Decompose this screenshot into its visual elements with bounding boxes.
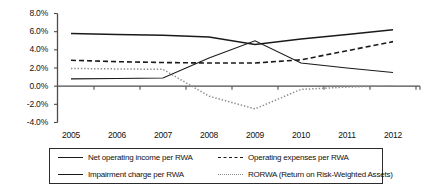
x-axis-tick-label: 2006: [97, 131, 137, 140]
x-axis-tick-label: 2011: [327, 131, 367, 140]
legend-label: RORWA (Return on Risk-Weighted Assets): [248, 170, 393, 179]
legend-label: Impairment charge per RWA: [88, 170, 184, 179]
legend-entry-rorwa: RORWA (Return on Risk-Weighted Assets): [218, 166, 393, 183]
y-axis-tick-label: 4.0%: [14, 45, 48, 54]
line-chart: 8.0%6.0%4.0%2.0%0.0%-2.0%-4.0% 200520062…: [0, 0, 430, 189]
y-axis-tick-label: 8.0%: [14, 9, 48, 18]
chart-legend: Net operating income per RWA Operating e…: [49, 148, 383, 184]
series-layer: [71, 30, 393, 109]
x-axis-tick-label: 2008: [189, 131, 229, 140]
x-axis-tick-label: 2010: [281, 131, 321, 140]
legend-entry-operating-expenses: Operating expenses per RWA: [218, 149, 349, 166]
axes-layer: [54, 14, 420, 123]
y-axis-tick-label: -2.0%: [14, 100, 48, 109]
x-axis-tick-label: 2009: [235, 131, 275, 140]
y-axis-tick-label: 6.0%: [14, 27, 48, 36]
x-axis-tick-label: 2012: [373, 131, 413, 140]
legend-label: Operating expenses per RWA: [248, 153, 349, 162]
series-line-0: [71, 30, 393, 45]
legend-line-icon-dotted: [218, 170, 243, 179]
legend-line-icon-solid-thick: [58, 153, 83, 162]
y-axis-tick-label: -4.0%: [14, 118, 48, 127]
y-axis-tick-label: 0.0%: [14, 82, 48, 91]
legend-entry-impairment-charge: Impairment charge per RWA: [58, 166, 184, 183]
series-line-2: [71, 41, 393, 79]
legend-label: Net operating income per RWA: [88, 153, 193, 162]
legend-row-2: Impairment charge per RWA RORWA (Return …: [50, 166, 382, 183]
x-axis-tick-label: 2007: [143, 131, 183, 140]
series-line-1: [71, 42, 393, 63]
x-axis-tick-label: 2005: [51, 131, 91, 140]
legend-entry-net-operating-income: Net operating income per RWA: [58, 149, 193, 166]
legend-row-1: Net operating income per RWA Operating e…: [50, 149, 382, 166]
legend-line-icon-solid-thin: [58, 170, 83, 179]
legend-line-icon-dashed: [218, 153, 243, 162]
y-axis-tick-label: 2.0%: [14, 64, 48, 73]
